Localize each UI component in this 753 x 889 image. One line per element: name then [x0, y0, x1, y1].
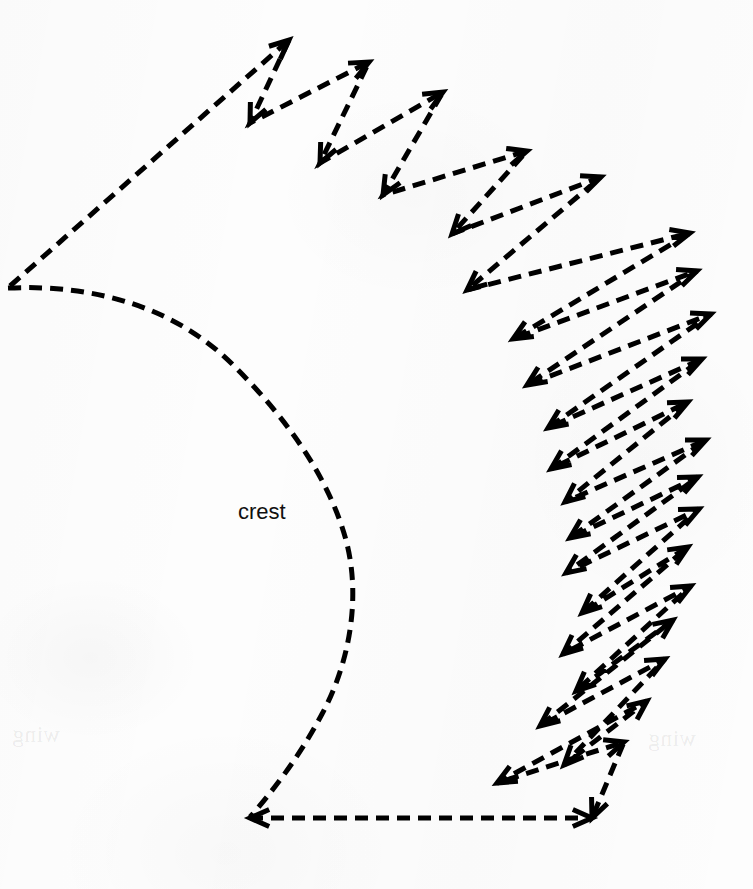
crest-curve-path — [8, 288, 353, 817]
crest-label: crest — [238, 501, 286, 523]
leading-edge-path — [10, 40, 289, 286]
arrowhead-icon — [592, 797, 608, 818]
figure-canvas: wing wing crest — [0, 0, 753, 889]
crest-diagram-svg — [0, 0, 753, 889]
arrowhead-group — [250, 40, 711, 827]
ink-group — [8, 40, 711, 818]
